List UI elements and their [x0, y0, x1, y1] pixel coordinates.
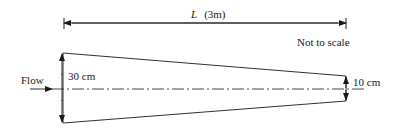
flow-indicator: Flow: [21, 74, 52, 89]
tapered-pipe-diagram: L (3m) Not to scale Flow 30 cm 10 cm: [0, 0, 397, 130]
outlet-diameter-label: 10 cm: [353, 76, 381, 88]
outlet-diameter-dimension: 10 cm: [346, 76, 381, 100]
tapered-pipe-outline: [63, 53, 346, 123]
not-to-scale-note: Not to scale: [297, 36, 350, 48]
inlet-diameter-dimension: 30 cm: [62, 54, 96, 122]
inlet-diameter-label: 30 cm: [68, 70, 96, 82]
length-value: (3m): [204, 8, 226, 21]
length-symbol: L: [190, 8, 197, 20]
length-dimension: L (3m): [64, 4, 346, 29]
length-label: L (3m): [190, 4, 226, 21]
flow-label: Flow: [21, 74, 44, 86]
